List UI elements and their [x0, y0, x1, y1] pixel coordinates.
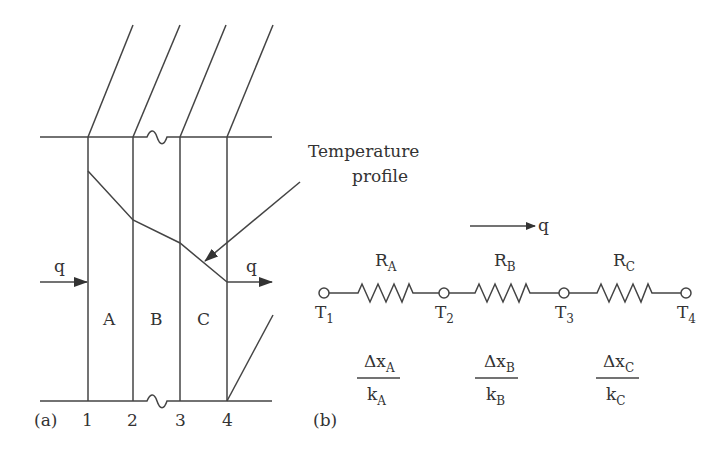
- panel-a-label: (a): [34, 410, 57, 430]
- resistor-a: [329, 284, 439, 302]
- panel-b-label: (b): [313, 410, 337, 430]
- interface-2-label: 2: [127, 410, 138, 430]
- node-t4-label: T4: [677, 302, 696, 326]
- perspective-line: [227, 25, 273, 137]
- composite-wall-diagram: q q Temperature profile A B C (a) 1 2 3 …: [0, 0, 727, 449]
- svg-text:kB: kB: [486, 384, 505, 408]
- svg-text:kC: kC: [606, 384, 626, 408]
- svg-text:ΔxB: ΔxB: [484, 351, 515, 375]
- heat-flow-in-label: q: [54, 256, 65, 276]
- svg-text:kA: kA: [367, 384, 386, 408]
- node-t2: [439, 288, 449, 298]
- fraction-c: ΔxC kC: [596, 351, 639, 408]
- resistor-a-label: RA: [375, 250, 397, 274]
- annotation-arrow: [205, 182, 300, 261]
- temperature-profile-line: [88, 171, 227, 282]
- interface-4-label: 4: [222, 410, 233, 430]
- interface-3-label: 3: [175, 410, 186, 430]
- resistor-b-label: RB: [494, 250, 516, 274]
- layer-c-label: C: [197, 309, 210, 329]
- figure-a: q q Temperature profile A B C (a) 1 2 3 …: [34, 25, 419, 430]
- perspective-line: [88, 25, 133, 137]
- node-t4: [681, 288, 691, 298]
- top-boundary-line: [40, 131, 272, 144]
- node-t1-label: T1: [315, 302, 334, 326]
- layer-a-label: A: [102, 309, 116, 329]
- node-t3: [559, 288, 569, 298]
- annotation-line2: profile: [352, 166, 408, 186]
- fraction-b: ΔxB kB: [475, 351, 518, 408]
- resistor-b: [449, 284, 559, 302]
- heat-flow-out-label: q: [246, 256, 257, 276]
- svg-text:ΔxA: ΔxA: [364, 351, 395, 375]
- annotation-line1: Temperature: [308, 141, 419, 161]
- resistor-c: [569, 284, 681, 302]
- layer-b-label: B: [150, 309, 163, 329]
- perspective-line: [133, 25, 180, 137]
- heat-flow-label: q: [538, 215, 549, 235]
- interface-1-label: 1: [82, 410, 93, 430]
- fraction-a: ΔxA kA: [357, 351, 400, 408]
- node-t3-label: T3: [555, 302, 574, 326]
- figure-b: q RA RB RC T1 T2 T3 T4 ΔxA kA ΔxB kB ΔxC: [313, 215, 696, 430]
- node-t2-label: T2: [435, 302, 454, 326]
- bottom-boundary-line: [40, 395, 272, 408]
- perspective-line: [180, 25, 226, 137]
- node-t1: [319, 288, 329, 298]
- svg-text:ΔxC: ΔxC: [603, 351, 634, 375]
- perspective-line: [227, 315, 273, 401]
- resistor-c-label: RC: [613, 250, 635, 274]
